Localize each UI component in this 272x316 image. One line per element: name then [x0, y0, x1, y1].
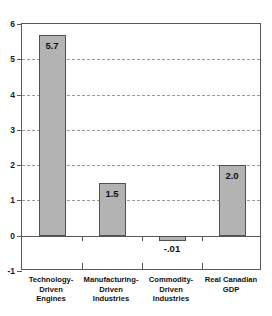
y-axis-tick: [17, 24, 22, 25]
y-axis-label: 0: [10, 231, 15, 241]
category-label: Commodity- Driven Industries: [141, 275, 201, 304]
y-axis-tick: [17, 130, 22, 131]
y-axis-tick: [17, 59, 22, 60]
y-axis-tick: [17, 271, 22, 272]
plot-area: 6543210-1 5.71.5-.012.0: [21, 23, 261, 270]
category-label: Manufacturing- Driven Industries: [81, 275, 141, 304]
y-axis-label: 3: [10, 125, 15, 135]
bar[interactable]: 1.5: [99, 183, 126, 236]
x-axis-tick: [82, 236, 83, 241]
y-axis-label: -1: [7, 266, 15, 276]
x-axis-tick: [202, 236, 203, 241]
bar-value-label: 1.5: [105, 188, 118, 199]
x-axis-tick-bottom: [82, 263, 83, 269]
y-axis-tick: [17, 236, 22, 237]
x-axis-tick: [142, 236, 143, 241]
y-axis-tick: [17, 165, 22, 166]
y-axis-label: 1: [10, 195, 15, 205]
bar-value-label: 5.7: [45, 40, 58, 51]
bar-chart: 6543210-1 5.71.5-.012.0 Technology- Driv…: [0, 0, 272, 316]
y-axis-tick: [17, 200, 22, 201]
category-label: Real Canadian GDP: [201, 275, 261, 294]
bar[interactable]: -.01: [159, 236, 186, 241]
x-axis-tick-bottom: [142, 263, 143, 269]
x-axis-tick-bottom: [202, 263, 203, 269]
bar[interactable]: 5.7: [39, 35, 66, 236]
y-axis-tick: [17, 95, 22, 96]
y-axis-label: 4: [10, 90, 15, 100]
y-axis-label: 2: [10, 160, 15, 170]
category-label: Technology- Driven Engines: [21, 275, 81, 304]
bar[interactable]: 2.0: [219, 165, 246, 236]
y-axis-label: 5: [10, 54, 15, 64]
zero-line: [22, 236, 260, 237]
y-axis-label: 6: [10, 19, 15, 29]
bar-value-label: 2.0: [225, 170, 238, 181]
bar-value-label: -.01: [164, 243, 180, 254]
